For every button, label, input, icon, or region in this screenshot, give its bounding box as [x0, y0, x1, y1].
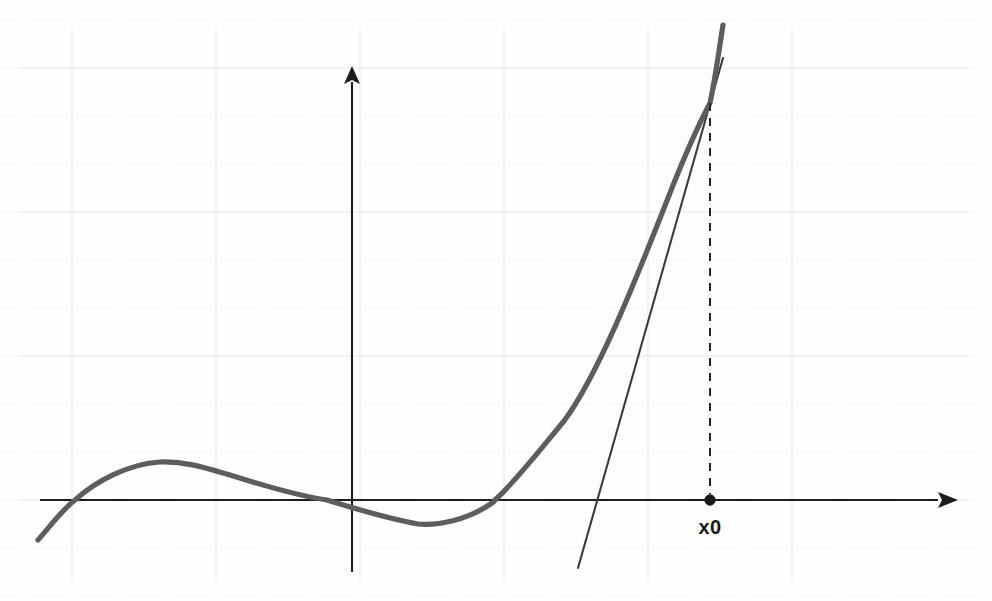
- x0-point-marker[interactable]: [705, 495, 715, 505]
- figure-container: x0: [0, 0, 992, 601]
- background-grid: [0, 0, 992, 601]
- y-axis-arrow-icon: [344, 66, 360, 84]
- grid-minor-lines: [0, 0, 992, 601]
- x0-label: x0: [699, 516, 722, 538]
- function-curve: [38, 25, 723, 540]
- graph-canvas: x0: [0, 0, 992, 601]
